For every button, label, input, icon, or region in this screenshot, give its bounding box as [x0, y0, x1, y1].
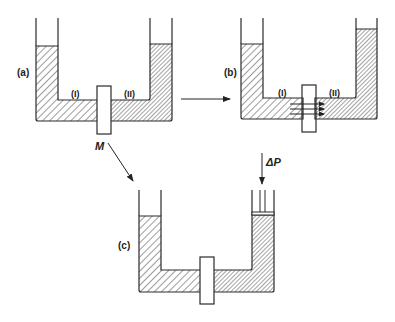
panel-c: ΔP (c)	[118, 153, 281, 304]
osmosis-diagram: (a) (I) (II) M (b) (I) (II)	[0, 0, 395, 322]
membrane-m	[97, 86, 111, 134]
panel-a-label: (a)	[17, 67, 29, 78]
arrow-m-to-c	[108, 143, 133, 181]
compartment-i-liquid-b	[241, 44, 303, 119]
membrane-label: M	[95, 140, 105, 152]
panel-a: (a) (I) (II) M	[17, 18, 172, 152]
compartment-ii-liquid-c	[213, 215, 274, 292]
panel-c-label: (c)	[118, 240, 130, 251]
compartment-i-label-b: (I)	[278, 88, 287, 98]
compartment-ii-label: (II)	[124, 89, 135, 99]
membrane-m-c	[200, 257, 214, 304]
panel-b: (b) (I) (II)	[224, 18, 377, 132]
piston	[252, 190, 274, 215]
compartment-ii-liquid-b	[315, 29, 377, 119]
compartment-i-label: (I)	[71, 89, 80, 99]
compartment-i-liquid	[36, 46, 98, 121]
pressure-label: ΔP	[265, 156, 281, 168]
panel-b-label: (b)	[224, 67, 237, 78]
compartment-i-liquid-c	[139, 216, 201, 292]
compartment-ii-label-b: (II)	[329, 88, 340, 98]
compartment-ii-liquid	[110, 44, 172, 121]
